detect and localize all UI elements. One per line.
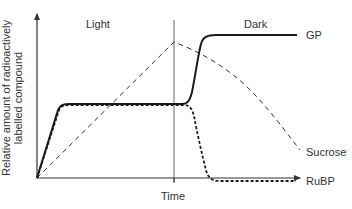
diagram-canvas <box>0 0 352 209</box>
rubp-curve <box>37 105 296 181</box>
x-axis-label: Time <box>161 190 185 202</box>
gp-series-label: GP <box>306 29 322 41</box>
sucrose-series-label: Sucrose <box>306 146 346 158</box>
light-region-label: Light <box>86 18 110 30</box>
sucrose-curve <box>37 42 300 178</box>
dark-region-label: Dark <box>244 18 267 30</box>
rubp-series-label: RuBP <box>306 175 335 187</box>
y-axis-label-line1: Relative amount of radioactively <box>0 20 12 176</box>
y-axis-label-line2: labelled compound <box>12 20 24 176</box>
y-axis-label: Relative amount of radioactively labelle… <box>0 20 24 176</box>
photosynthesis-light-dark-diagram: Relative amount of radioactively labelle… <box>0 0 352 209</box>
gp-curve <box>37 35 297 178</box>
